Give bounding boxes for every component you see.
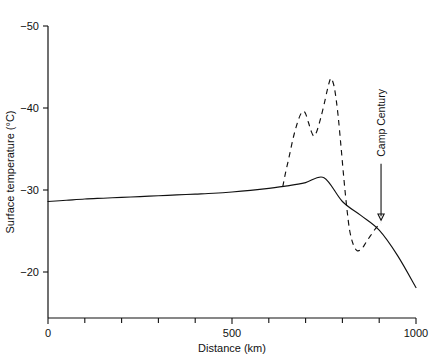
y-axis-tick-marks: [43, 26, 48, 272]
series-line-dashed: [283, 78, 381, 251]
y-tick-label: −40: [20, 102, 39, 114]
series-line-solid: [48, 177, 416, 288]
y-tick-label: −20: [20, 266, 39, 278]
x-axis-tick-labels: 05001000: [45, 327, 428, 339]
y-tick-label: −50: [20, 20, 39, 32]
x-axis-title: Distance (km): [198, 342, 266, 354]
x-tick-label: 500: [223, 327, 241, 339]
y-tick-label: −30: [20, 184, 39, 196]
camp-century-annotation: Camp Century: [375, 88, 387, 220]
y-axis-title: Surface temperature (°C): [4, 111, 16, 234]
x-tick-label: 0: [45, 327, 51, 339]
chart-canvas: −50−40−30−20 05001000 Surface temperatur…: [0, 0, 431, 359]
annotation-label: Camp Century: [375, 88, 387, 156]
temperature-distance-chart: −50−40−30−20 05001000 Surface temperatur…: [0, 0, 431, 359]
x-tick-label: 1000: [404, 327, 428, 339]
x-axis-tick-marks: [48, 318, 416, 324]
y-axis-tick-labels: −50−40−30−20: [20, 20, 39, 278]
axes-group: [43, 26, 416, 324]
